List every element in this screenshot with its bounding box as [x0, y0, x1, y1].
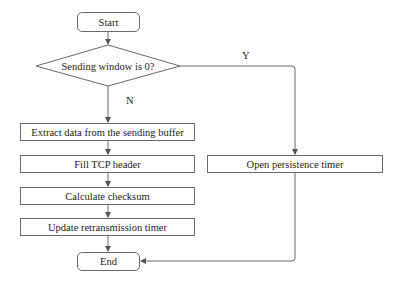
extract-data-label: Extract data from the sending buffer	[31, 127, 183, 138]
decision-label: Sending window is 0?	[36, 56, 180, 76]
end-label: End	[100, 256, 117, 267]
calculate-checksum-label: Calculate checksum	[65, 191, 149, 202]
yes-edge-label: Y	[242, 50, 250, 61]
calculate-checksum-node: Calculate checksum	[20, 187, 195, 205]
start-node: Start	[77, 12, 140, 32]
update-retransmission-timer-node: Update retransmission timer	[20, 218, 195, 236]
start-label: Start	[99, 17, 119, 28]
no-edge-label: N	[126, 95, 134, 106]
extract-data-node: Extract data from the sending buffer	[20, 123, 195, 141]
connector-lines	[0, 0, 396, 284]
fill-tcp-header-node: Fill TCP header	[20, 155, 195, 173]
end-node: End	[77, 252, 140, 271]
update-retransmission-timer-label: Update retransmission timer	[48, 222, 167, 233]
open-persistence-timer-node: Open persistence timer	[207, 155, 383, 173]
open-persistence-timer-label: Open persistence timer	[247, 159, 344, 170]
fill-tcp-header-label: Fill TCP header	[74, 159, 141, 170]
